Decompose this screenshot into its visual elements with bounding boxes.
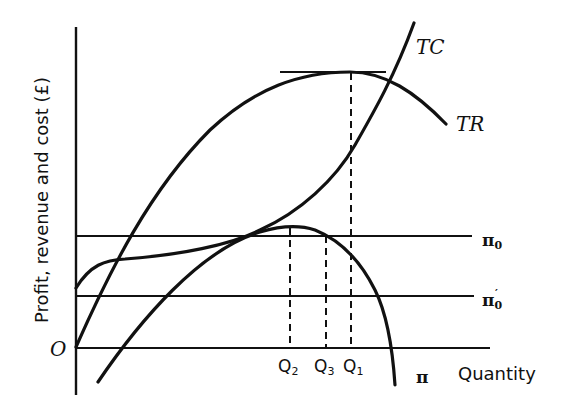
tr-curve (76, 72, 446, 347)
tc-label: TC (416, 35, 445, 59)
q2-label: Q2 (278, 356, 298, 378)
pi0-prime-label: π0′ (482, 287, 502, 312)
pi-curve-label: π (416, 367, 428, 387)
origin-label: O (50, 337, 66, 361)
q3-label: Q3 (314, 356, 334, 378)
y-axis-label: Profit, revenue and cost (£) (31, 77, 52, 323)
pi0-label: π0 (482, 230, 502, 252)
x-axis-label: Quantity (458, 363, 536, 384)
tc-curve (76, 23, 414, 288)
revenue-maximisation-chart: TC TR π0 π0′ O Q2 Q3 Q1 π Quantity Profi… (0, 0, 566, 413)
tr-label: TR (456, 112, 484, 136)
q1-label: Q1 (343, 356, 363, 378)
